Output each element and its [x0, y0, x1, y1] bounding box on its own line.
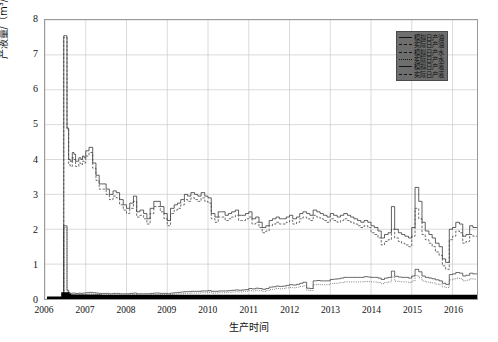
y-tick-label: 7 — [8, 49, 38, 59]
x-tick-label: 2006 — [22, 305, 66, 315]
x-tick-label: 2016 — [431, 305, 475, 315]
y-tick-label: 1 — [8, 260, 38, 270]
legend-line-icon — [399, 34, 412, 41]
series-line — [47, 296, 477, 299]
x-tick-label: 2011 — [227, 305, 271, 315]
x-tick-label: 2008 — [104, 305, 148, 315]
legend-item-label: 模拟日产液 — [414, 63, 444, 70]
x-axis-title: 生产时间 — [0, 322, 498, 334]
chart-legend: 模拟日产油实际日产油模拟日产水实际日产水模拟日产液实际日产液 — [396, 31, 448, 81]
x-tick-label: 2007 — [63, 305, 107, 315]
x-tick-label: 2015 — [390, 305, 434, 315]
x-tick-label: 2012 — [268, 305, 312, 315]
y-tick-label: 2 — [8, 225, 38, 235]
y-tick-label: 8 — [8, 14, 38, 24]
x-tick-label: 2010 — [186, 305, 230, 315]
legend-item-label: 模拟日产水 — [414, 49, 444, 56]
y-tick-label: 0 — [8, 295, 38, 305]
legend-item: 模拟日产液 — [399, 63, 444, 70]
legend-item: 实际日产液 — [399, 70, 444, 77]
legend-line-icon — [399, 49, 412, 56]
y-tick-label: 3 — [8, 190, 38, 200]
legend-line-icon — [399, 63, 412, 70]
legend-line-icon — [399, 71, 412, 78]
series-line — [47, 226, 477, 299]
y-tick-label: 4 — [8, 155, 38, 165]
x-tick-label: 2014 — [350, 305, 394, 315]
legend-item-label: 实际日产液 — [414, 71, 444, 78]
legend-item-label: 实际日产水 — [414, 56, 444, 63]
x-tick-label: 2013 — [309, 305, 353, 315]
legend-line-icon — [399, 56, 412, 63]
x-tick-label: 2009 — [145, 305, 189, 315]
legend-line-icon — [399, 41, 412, 48]
y-tick-label: 6 — [8, 84, 38, 94]
y-tick-label: 5 — [8, 119, 38, 129]
legend-item-label: 实际日产油 — [414, 41, 444, 48]
legend-item: 实际日产油 — [399, 41, 444, 48]
chart-figure: 产液量/（m³/d） 012345678 2006200720082009201… — [0, 0, 498, 342]
legend-item: 模拟日产水 — [399, 49, 444, 56]
